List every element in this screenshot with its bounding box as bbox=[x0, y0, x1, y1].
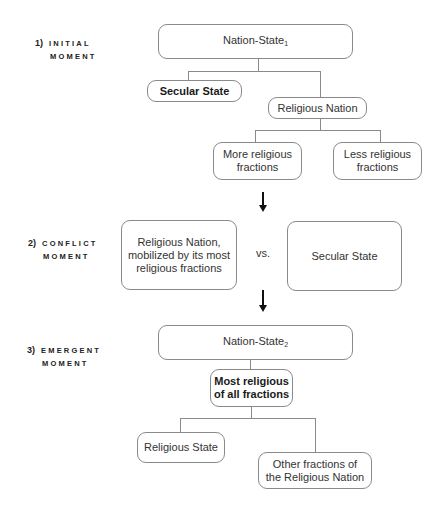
stage-title: CONFLICT bbox=[42, 239, 98, 248]
stage-title: INITIAL bbox=[49, 39, 91, 48]
conflict-secular-state-box: Secular State bbox=[287, 221, 402, 291]
more-religious-fractions-box: More religiousfractions bbox=[213, 142, 302, 180]
other-fractions-box: Other fractions ofthe Religious Nation bbox=[258, 452, 372, 489]
secular-state-label: Secular State bbox=[160, 85, 230, 98]
more-religious-label: More religiousfractions bbox=[223, 148, 292, 174]
other-fractions-label: Other fractions ofthe Religious Nation bbox=[266, 458, 364, 484]
religious-state-box: Religious State bbox=[137, 432, 225, 463]
stage-number: 3) bbox=[27, 345, 35, 355]
mobilized-religious-nation-box: Religious Nation,mobilized by its mostre… bbox=[121, 220, 237, 290]
nation-state-2-label: Nation-State2 bbox=[223, 335, 288, 351]
most-religious-box: Most religiousof all fractions bbox=[210, 369, 293, 407]
nation-state-1-box: Nation-State1 bbox=[158, 24, 353, 59]
connector bbox=[188, 71, 321, 72]
connector bbox=[258, 59, 259, 71]
connector bbox=[188, 71, 189, 80]
less-religious-fractions-box: Less religiousfractions bbox=[333, 142, 422, 180]
stage-label-initial: 1)INITIAL MOMENT bbox=[35, 37, 97, 63]
mobilized-religious-nation-label: Religious Nation,mobilized by its mostre… bbox=[128, 236, 230, 275]
stage-subtitle: MOMENT bbox=[27, 357, 101, 370]
connector bbox=[255, 130, 256, 142]
stage-label-conflict: 2)CONFLICT MOMENT bbox=[28, 237, 98, 263]
stage-number: 2) bbox=[28, 238, 36, 248]
stage-label-emergent: 3)EMERGENT MOMENT bbox=[27, 344, 101, 370]
connector bbox=[250, 360, 251, 369]
nation-state-2-box: Nation-State2 bbox=[158, 325, 353, 360]
connector bbox=[315, 418, 316, 452]
versus-label: vs. bbox=[256, 247, 270, 259]
conflict-secular-state-label: Secular State bbox=[311, 250, 377, 263]
stage-subtitle: MOMENT bbox=[35, 50, 97, 63]
connector bbox=[251, 407, 252, 418]
most-religious-label: Most religiousof all fractions bbox=[214, 375, 289, 401]
stage-subtitle: MOMENT bbox=[28, 250, 98, 263]
connector bbox=[380, 130, 381, 142]
stage-title: EMERGENT bbox=[41, 346, 101, 355]
stage-number: 1) bbox=[35, 38, 43, 48]
religious-state-label: Religious State bbox=[144, 441, 218, 454]
connector bbox=[180, 418, 316, 419]
secular-state-box: Secular State bbox=[147, 80, 242, 102]
nation-state-1-label: Nation-State1 bbox=[223, 34, 288, 50]
connector bbox=[255, 130, 381, 131]
connector bbox=[320, 71, 321, 97]
religious-nation-label: Religious Nation bbox=[277, 102, 357, 115]
connector bbox=[320, 119, 321, 130]
less-religious-label: Less religiousfractions bbox=[344, 148, 411, 174]
religious-nation-box: Religious Nation bbox=[268, 97, 367, 119]
connector bbox=[180, 418, 181, 432]
